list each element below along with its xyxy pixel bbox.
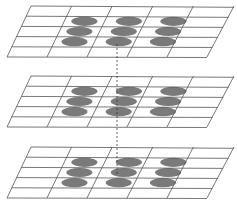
ellipse-marker xyxy=(71,87,97,96)
ellipse-marker xyxy=(71,158,97,167)
grid-row-line xyxy=(26,86,228,87)
ellipse-marker xyxy=(71,17,97,26)
stacked-grid-layers-diagram xyxy=(0,0,237,204)
top-layer xyxy=(7,6,234,58)
ellipse-marker xyxy=(66,27,92,36)
ellipse-marker xyxy=(62,37,88,46)
ellipse-marker xyxy=(106,37,132,46)
ellipse-marker xyxy=(155,168,181,177)
ellipse-marker xyxy=(62,178,88,187)
diagram-canvas xyxy=(0,0,237,204)
grid-row-line xyxy=(26,16,228,17)
ellipse-marker xyxy=(116,17,142,26)
grid-row-line xyxy=(17,37,218,38)
ellipse-marker xyxy=(106,107,132,116)
ellipse-marker xyxy=(155,27,181,36)
grid-row-line xyxy=(12,117,213,118)
ellipse-marker xyxy=(66,97,92,106)
ellipse-marker xyxy=(111,27,137,36)
grid-row-line xyxy=(21,167,223,168)
ellipse-array xyxy=(62,158,187,188)
grid-row-line xyxy=(31,147,234,148)
bottom-layer xyxy=(7,147,234,199)
ellipse-marker xyxy=(160,17,186,26)
ellipse-marker xyxy=(62,107,88,116)
grid-row-line xyxy=(12,47,213,48)
ellipse-marker xyxy=(66,168,92,177)
grid-row-line xyxy=(31,76,234,77)
grid-row-line xyxy=(17,178,218,179)
grid-row-line xyxy=(31,6,234,7)
grid-column-line xyxy=(7,6,31,57)
ellipse-marker xyxy=(160,158,186,167)
ellipse-marker xyxy=(111,97,137,106)
ellipse-array xyxy=(62,17,187,47)
ellipse-marker xyxy=(150,178,176,187)
grid-row-line xyxy=(7,127,207,128)
ellipse-marker xyxy=(150,107,176,116)
grid-row-line xyxy=(17,107,218,108)
ellipse-marker xyxy=(155,97,181,106)
middle-layer xyxy=(7,76,234,128)
grid-row-line xyxy=(21,26,223,27)
ellipse-marker xyxy=(111,168,137,177)
ellipse-marker xyxy=(160,87,186,96)
ellipse-marker xyxy=(150,37,176,46)
grid-row-line xyxy=(12,188,213,189)
grid-row-line xyxy=(7,198,207,199)
grid-column-line xyxy=(7,147,31,198)
grid-row-line xyxy=(21,96,223,97)
grid-column-line xyxy=(207,6,234,57)
ellipse-array xyxy=(62,87,187,117)
ellipse-marker xyxy=(116,87,142,96)
grid-column-line xyxy=(7,76,31,127)
ellipse-marker xyxy=(106,178,132,187)
grid-row-line xyxy=(26,157,228,158)
grid-column-line xyxy=(207,147,234,198)
grid-row-line xyxy=(7,57,207,58)
grid-column-line xyxy=(207,76,234,127)
ellipse-marker xyxy=(116,158,142,167)
